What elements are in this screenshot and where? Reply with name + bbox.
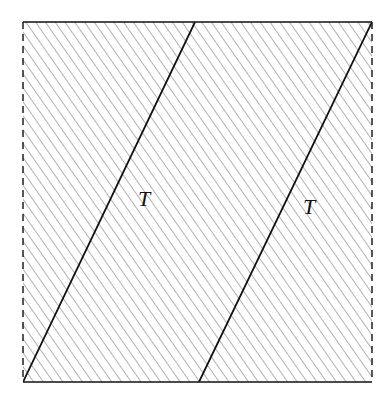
hatched-region [23,22,372,382]
label-t-2: T [303,194,317,219]
label-t-1: T [138,186,152,211]
diagram-canvas: T T [0,0,392,408]
